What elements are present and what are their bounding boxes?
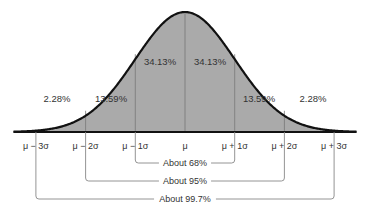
region-percent-label: 13.59%: [243, 93, 276, 104]
region-percent-label: 34.13%: [194, 56, 227, 67]
range-bracket-label: About 68%: [163, 158, 207, 168]
region-percent-label: 2.28%: [44, 93, 71, 104]
region-percent-label: 34.13%: [144, 56, 177, 67]
normal-distribution-diagram: 2.28%13.59%34.13%34.13%13.59%2.28% μ − 3…: [0, 0, 366, 206]
region-percent-label: 13.59%: [95, 93, 128, 104]
region-percent-label: 2.28%: [300, 93, 327, 104]
range-bracket-label: About 99.7%: [159, 194, 211, 204]
range-bracket: [86, 132, 285, 181]
range-bracket-label: About 95%: [163, 176, 207, 186]
x-tick-label: μ: [182, 141, 187, 151]
